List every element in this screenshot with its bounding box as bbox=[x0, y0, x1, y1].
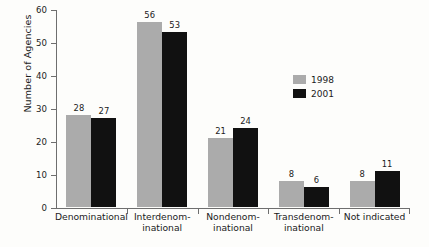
bar-group-3: 2124 bbox=[208, 128, 258, 207]
y-tick-label-50: 50 bbox=[36, 38, 47, 48]
bar-2001-4[interactable]: 6 bbox=[304, 187, 329, 207]
category-label-5: Not indicated bbox=[315, 212, 429, 223]
plot-area: 0102030405060 28275653212486811 bbox=[56, 10, 410, 208]
legend-swatch-1998 bbox=[293, 75, 306, 84]
bar-1998-2[interactable]: 56 bbox=[137, 22, 162, 207]
y-tick-50 bbox=[51, 43, 56, 44]
y-tick-40 bbox=[51, 76, 56, 77]
y-tick-label-10: 10 bbox=[36, 170, 47, 180]
bar-value-label: 6 bbox=[314, 175, 319, 185]
bar-value-label: 53 bbox=[169, 20, 180, 30]
bar-value-label: 8 bbox=[289, 169, 294, 179]
legend-label-1998: 1998 bbox=[311, 75, 334, 85]
bar-group-2: 5653 bbox=[137, 22, 187, 207]
y-tick-10 bbox=[51, 175, 56, 176]
bar-chart: Number of Agencies 0102030405060 2827565… bbox=[0, 0, 429, 247]
bar-value-label: 21 bbox=[215, 126, 226, 136]
bar-1998-5[interactable]: 8 bbox=[350, 181, 375, 207]
bar-1998-4[interactable]: 8 bbox=[279, 181, 304, 207]
legend-label-2001: 2001 bbox=[311, 89, 334, 99]
bar-2001-5[interactable]: 11 bbox=[375, 171, 400, 207]
chart-legend: 1998 2001 bbox=[293, 74, 334, 102]
x-axis-line bbox=[56, 208, 410, 209]
bar-group-5: 811 bbox=[350, 171, 400, 207]
y-tick-60 bbox=[51, 10, 56, 11]
bar-value-label: 27 bbox=[99, 106, 110, 116]
bar-group-4: 86 bbox=[279, 181, 329, 207]
bar-2001-3[interactable]: 24 bbox=[233, 128, 258, 207]
bar-value-label: 11 bbox=[382, 159, 393, 169]
bar-group-1: 2827 bbox=[66, 115, 116, 207]
legend-swatch-2001 bbox=[293, 89, 306, 98]
bar-value-label: 56 bbox=[144, 10, 155, 20]
bar-2001-1[interactable]: 27 bbox=[91, 118, 116, 207]
bar-value-label: 24 bbox=[240, 116, 251, 126]
y-tick-20 bbox=[51, 142, 56, 143]
legend-item-1998: 1998 bbox=[293, 74, 334, 85]
y-tick-30 bbox=[51, 109, 56, 110]
y-axis-title: Number of Agencies bbox=[22, 0, 33, 129]
y-tick-0 bbox=[51, 208, 56, 209]
bar-2001-2[interactable]: 53 bbox=[162, 32, 187, 207]
bar-1998-3[interactable]: 21 bbox=[208, 138, 233, 207]
bar-1998-1[interactable]: 28 bbox=[66, 115, 91, 207]
legend-item-2001: 2001 bbox=[293, 88, 334, 99]
y-tick-label-40: 40 bbox=[36, 71, 47, 81]
bar-value-label: 28 bbox=[74, 103, 85, 113]
y-tick-label-30: 30 bbox=[36, 104, 47, 114]
y-axis-line bbox=[56, 10, 57, 209]
y-tick-label-60: 60 bbox=[36, 5, 47, 15]
y-tick-label-20: 20 bbox=[36, 137, 47, 147]
bar-value-label: 8 bbox=[359, 169, 364, 179]
